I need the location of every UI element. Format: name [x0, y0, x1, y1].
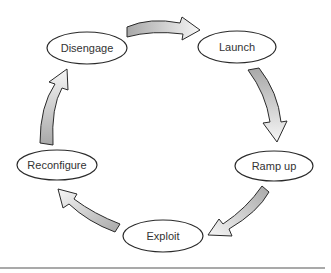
lifecycle-diagram: Disengage Launch Ramp up Exploit Reconfi… — [0, 0, 331, 273]
node-ramp-up: Ramp up — [235, 151, 313, 181]
node-launch: Launch — [198, 31, 276, 63]
node-disengage: Disengage — [47, 32, 127, 64]
arrow-exploit-to-reconfigure — [58, 189, 120, 232]
node-ramp-up-label: Ramp up — [252, 160, 297, 172]
node-exploit: Exploit — [123, 220, 203, 252]
node-reconfigure-label: Reconfigure — [27, 159, 86, 171]
arrow-launch-to-ramp-up — [248, 68, 287, 142]
arrow-ramp-up-to-exploit — [208, 186, 269, 236]
node-disengage-label: Disengage — [61, 42, 114, 54]
node-launch-label: Launch — [219, 41, 255, 53]
node-exploit-label: Exploit — [146, 230, 179, 242]
arrow-reconfigure-to-disengage — [40, 69, 68, 145]
arrow-disengage-to-launch — [127, 17, 200, 40]
node-reconfigure: Reconfigure — [17, 150, 97, 180]
